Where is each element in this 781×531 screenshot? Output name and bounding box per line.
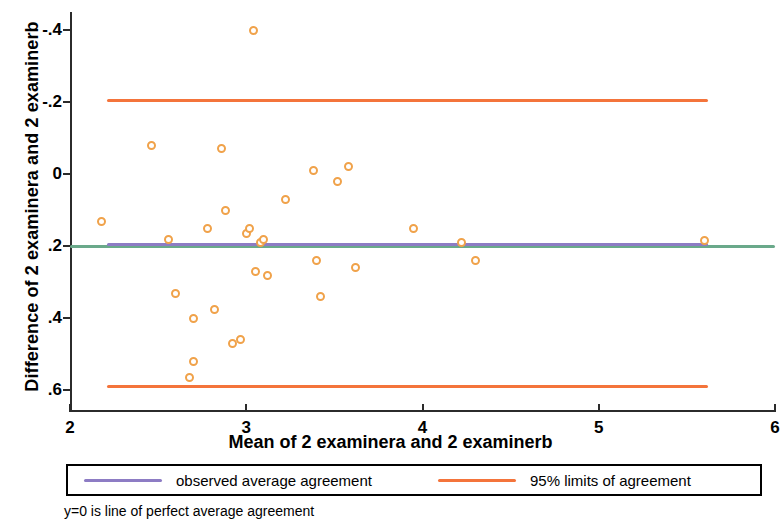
data-point	[236, 335, 245, 344]
footnote: y=0 is line of perfect average agreement	[64, 503, 314, 519]
x-tick	[774, 404, 776, 412]
y-tick	[63, 317, 70, 319]
legend-item-limits: 95% limits of agreement	[438, 472, 691, 489]
y-tick-label: .2	[2, 237, 62, 254]
y-tick	[63, 29, 70, 31]
y-axis-line	[70, 12, 72, 412]
data-point	[457, 238, 466, 247]
data-point	[97, 217, 106, 226]
x-tick	[69, 404, 71, 412]
data-point	[147, 141, 156, 150]
data-point	[217, 144, 226, 153]
y-tick-label: 0	[2, 165, 62, 182]
data-point	[259, 235, 268, 244]
bland-altman-figure: Difference of 2 examinera and 2 examiner…	[0, 0, 781, 531]
data-point	[249, 26, 258, 35]
y-axis-title: Difference of 2 examinera and 2 examiner…	[22, 7, 43, 407]
legend-swatch-observed-line	[84, 479, 162, 482]
x-tick	[598, 404, 600, 412]
x-tick	[422, 404, 424, 412]
data-point	[309, 166, 318, 175]
data-point	[245, 224, 254, 233]
data-point	[281, 195, 290, 204]
plot-area: .6.4.20-.2-.4 23456	[70, 12, 775, 412]
data-point	[221, 206, 230, 215]
data-point	[164, 235, 173, 244]
data-point	[316, 292, 325, 301]
data-point	[263, 271, 272, 280]
data-point	[409, 224, 418, 233]
legend-swatch-limits-line	[438, 479, 516, 482]
y-tick	[63, 245, 70, 247]
x-axis-title: Mean of 2 examinera and 2 examinerb	[0, 432, 781, 453]
data-point	[203, 224, 212, 233]
reference-line-upper-95-limit-of-agreement	[107, 99, 708, 102]
y-tick-label: .4	[2, 309, 62, 326]
data-point	[228, 339, 237, 348]
legend: observed average agreement 95% limits of…	[66, 464, 762, 496]
legend-item-observed: observed average agreement	[84, 472, 372, 489]
data-point	[189, 314, 198, 323]
legend-label-observed: observed average agreement	[176, 472, 372, 489]
x-tick	[245, 404, 247, 412]
y-tick	[63, 173, 70, 175]
data-point	[471, 256, 480, 265]
data-point	[189, 357, 198, 366]
data-point	[171, 289, 180, 298]
y-tick	[63, 101, 70, 103]
data-point	[333, 177, 342, 186]
y-tick-label: .6	[2, 381, 62, 398]
y-tick-label: -.2	[2, 93, 62, 110]
reference-line-observed-average-agreement	[107, 243, 708, 246]
y-tick	[63, 389, 70, 391]
y-tick-label: -.4	[2, 21, 62, 38]
data-point	[351, 263, 360, 272]
legend-label-limits: 95% limits of agreement	[530, 472, 691, 489]
data-point	[344, 162, 353, 171]
reference-line-lower-95-limit-of-agreement	[107, 385, 708, 388]
data-point	[312, 256, 321, 265]
data-point	[251, 267, 260, 276]
data-point	[185, 373, 194, 382]
data-point	[210, 305, 219, 314]
